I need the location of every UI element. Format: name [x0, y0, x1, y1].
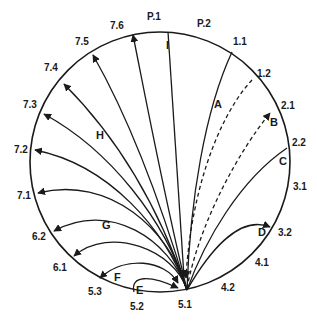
boundary-label: 7.5: [75, 36, 89, 47]
path-i2-arrow: [133, 35, 187, 290]
boundary-label: 7.2: [14, 144, 28, 155]
boundary-labels: P.1P.21.11.22.12.23.13.24.14.25.15.25.36…: [14, 11, 307, 312]
curve-label: G: [102, 219, 111, 231]
boundary-label: 3.2: [278, 227, 292, 238]
path-7.4-arrow: [64, 84, 187, 290]
boundary-label: 4.2: [221, 282, 235, 293]
curve-label: I: [166, 39, 169, 51]
boundary-label: 6.1: [53, 262, 67, 273]
curve-label: D: [258, 226, 266, 238]
boundary-label: 5.3: [88, 286, 102, 297]
path-7.1-arrow: [38, 190, 187, 290]
boundary-label: 7.6: [110, 20, 124, 31]
boundary-label: 7.4: [44, 62, 58, 73]
transition-paths: [35, 32, 287, 292]
boundary-label: 2.1: [281, 100, 295, 111]
boundary-circle: [30, 32, 290, 292]
transition-diagram: P.1P.21.11.22.12.23.13.24.14.25.15.25.36…: [0, 0, 317, 324]
curve-label: B: [270, 116, 278, 128]
boundary-label: 7.1: [17, 190, 31, 201]
curve-label: A: [214, 98, 222, 110]
curve-label: F: [114, 271, 121, 283]
curve-label: C: [279, 155, 287, 167]
boundary-label: 5.2: [130, 301, 144, 312]
curve-label: H: [96, 129, 104, 141]
boundary-label: 1.1: [233, 36, 247, 47]
boundary-label: P.1: [147, 11, 161, 22]
boundary-label: 3.1: [293, 181, 307, 192]
curve-label: E: [136, 284, 143, 296]
boundary-label: 4.1: [255, 257, 269, 268]
boundary-label: 6.2: [32, 231, 46, 242]
boundary-label: P.2: [197, 18, 211, 29]
boundary-label: 7.3: [23, 99, 37, 110]
boundary-label: 2.2: [292, 137, 306, 148]
path-a: [187, 52, 232, 290]
boundary-label: 1.2: [257, 68, 271, 79]
path-c: [187, 148, 287, 290]
boundary-label: 5.1: [178, 299, 192, 310]
